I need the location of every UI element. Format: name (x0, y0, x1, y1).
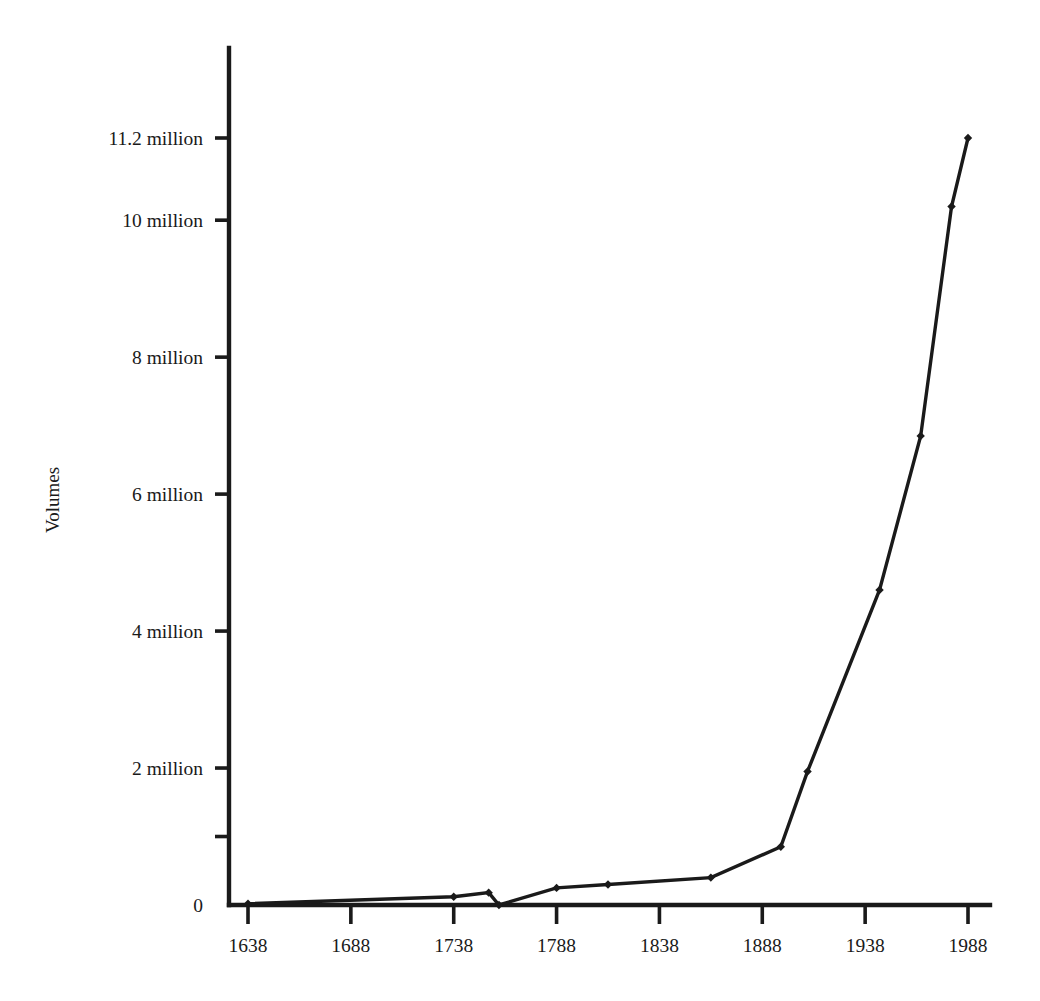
y-tick-label: 10 million (122, 210, 203, 231)
data-point-marker (916, 432, 924, 440)
x-tick-label: 1738 (434, 935, 473, 956)
x-tick-label: 1888 (743, 935, 782, 956)
y-axis-tick-labels: 02 million4 million6 million8 million10 … (108, 128, 203, 916)
y-axis-title: Volumes (42, 467, 63, 533)
x-tick-label: 1938 (846, 935, 885, 956)
data-point-marker (552, 884, 560, 892)
x-tick-label: 1838 (640, 935, 679, 956)
data-point-marker (964, 134, 972, 142)
data-series-volumes (244, 134, 972, 909)
x-tick-label: 1638 (229, 935, 268, 956)
y-tick-label: 0 (193, 895, 203, 916)
y-tick-label: 8 million (132, 347, 203, 368)
x-tick-label: 1988 (949, 935, 988, 956)
y-tick-label: 11.2 million (108, 128, 203, 149)
x-axis-ticks (248, 907, 968, 924)
line-chart: 02 million4 million6 million8 million10 … (0, 0, 1040, 1001)
y-tick-label: 4 million (132, 621, 203, 642)
x-axis-tick-labels: 16381688173817881838188819381988 (229, 935, 988, 956)
data-point-marker (450, 893, 458, 901)
x-tick-label: 1688 (331, 935, 370, 956)
x-tick-label: 1788 (537, 935, 576, 956)
chart-canvas: 02 million4 million6 million8 million10 … (0, 0, 1040, 1001)
series-markers-volumes (244, 134, 972, 909)
y-tick-label: 6 million (132, 484, 203, 505)
data-point-marker (947, 202, 955, 210)
data-point-marker (604, 880, 612, 888)
series-line-volumes (248, 138, 968, 905)
y-tick-label: 2 million (132, 758, 203, 779)
